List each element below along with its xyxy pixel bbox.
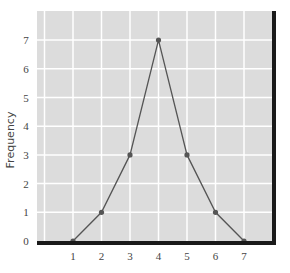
y-tick-label: 6 — [23, 63, 29, 75]
y-tick-label: 5 — [23, 92, 29, 104]
x-axis-frame — [37, 241, 276, 245]
y-axis-label: Frequency — [4, 111, 17, 168]
x-tick-label: 7 — [241, 250, 247, 262]
y-tick-label: 4 — [23, 120, 29, 132]
x-axis-ticks: 1234567 — [70, 250, 247, 262]
y-axis-ticks: 01234567 — [23, 34, 29, 247]
y-tick-label: 0 — [23, 235, 29, 247]
right-axis-frame — [272, 11, 276, 245]
x-tick-label: 1 — [70, 250, 76, 262]
y-tick-label: 1 — [23, 206, 29, 218]
data-point-marker — [213, 210, 218, 215]
y-tick-label: 3 — [23, 149, 29, 161]
data-point-marker — [127, 152, 132, 157]
y-tick-label: 2 — [23, 178, 29, 190]
data-point-marker — [99, 210, 104, 215]
data-point-marker — [184, 152, 189, 157]
x-tick-label: 5 — [184, 250, 190, 262]
data-point-marker — [156, 38, 161, 43]
x-tick-label: 6 — [213, 250, 219, 262]
x-tick-label: 2 — [99, 250, 105, 262]
x-tick-label: 3 — [127, 250, 133, 262]
x-tick-label: 4 — [156, 250, 162, 262]
frequency-line-chart: 01234567 1234567 Frequency — [0, 0, 290, 273]
y-tick-label: 7 — [23, 34, 29, 46]
